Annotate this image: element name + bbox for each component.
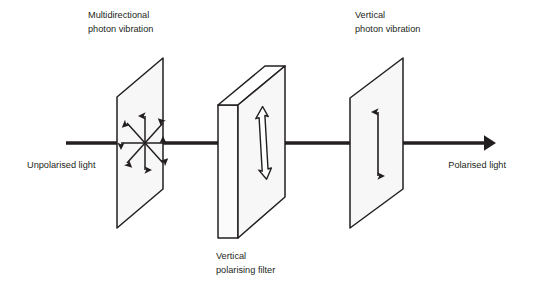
unpolarised-light-label: Unpolarised light bbox=[27, 160, 96, 170]
plane3-surface bbox=[350, 58, 403, 228]
plane1-label-line2: photon vibration bbox=[88, 24, 153, 34]
plane1-label-line1: Multidirectional bbox=[88, 10, 149, 20]
plane3-label-line1: Vertical bbox=[355, 10, 385, 20]
polarised-light-label: Polarised light bbox=[448, 160, 506, 170]
filter-label-line1: Vertical bbox=[216, 251, 246, 261]
unpolarised-wave-plane bbox=[117, 58, 163, 228]
polarisation-diagram: Multidirectional photon vibration Vertic… bbox=[0, 0, 534, 294]
beam-arrowhead-icon bbox=[484, 135, 496, 151]
filter-side-face bbox=[218, 105, 238, 238]
plane3-label-line2: photon vibration bbox=[355, 24, 420, 34]
vertical-polarising-filter bbox=[218, 66, 285, 238]
diagram-canvas: Multidirectional photon vibration Vertic… bbox=[0, 0, 534, 294]
filter-label-line2: polarising filter bbox=[216, 265, 275, 275]
polarised-wave-plane bbox=[350, 58, 403, 228]
